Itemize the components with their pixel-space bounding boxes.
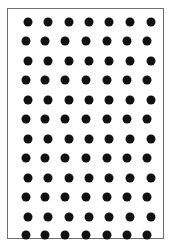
grid-dot (123, 231, 132, 240)
grid-dot (85, 18, 94, 27)
grid-dot (82, 154, 91, 163)
grid-dot (61, 37, 70, 46)
grid-dot (85, 57, 94, 66)
grid-dot (41, 76, 50, 85)
grid-dot (147, 174, 156, 183)
grid-dot (123, 193, 132, 202)
grid-dot (147, 18, 156, 27)
grid-dot (143, 115, 152, 124)
grid-dot (65, 57, 74, 66)
grid-dot (44, 135, 53, 144)
grid-dot (147, 213, 156, 222)
grid-dot (65, 18, 74, 27)
grid-dot (105, 18, 114, 27)
grid-dot (24, 174, 33, 183)
grid-dot (147, 96, 156, 105)
grid-dot (65, 96, 74, 105)
grid-dot (143, 76, 152, 85)
grid-dot (22, 76, 31, 85)
grid-dot (85, 96, 94, 105)
grid-dot (82, 193, 91, 202)
grid-dot (24, 135, 33, 144)
grid-dot (22, 193, 31, 202)
grid-dot (143, 37, 152, 46)
grid-dot (103, 231, 112, 240)
grid-dot (105, 213, 114, 222)
grid-dot (61, 231, 70, 240)
grid-dot (123, 115, 132, 124)
grid-dot (143, 193, 152, 202)
grid-dot (61, 76, 70, 85)
grid-dot (126, 57, 135, 66)
grid-dot (126, 96, 135, 105)
grid-dot (85, 135, 94, 144)
grid-dot (103, 76, 112, 85)
grid-dot (44, 96, 53, 105)
grid-dot (85, 174, 94, 183)
grid-dot (82, 76, 91, 85)
grid-dot (65, 174, 74, 183)
grid-dot (82, 115, 91, 124)
grid-dot (61, 193, 70, 202)
grid-dot (105, 174, 114, 183)
grid-dot (103, 154, 112, 163)
grid-dot (103, 193, 112, 202)
grid-dot (44, 213, 53, 222)
grid-dot (22, 231, 31, 240)
grid-dot (41, 193, 50, 202)
grid-dot (105, 57, 114, 66)
grid-dot (105, 96, 114, 105)
grid-dot (82, 231, 91, 240)
grid-dot (44, 18, 53, 27)
grid-dot (24, 96, 33, 105)
grid-dot (61, 154, 70, 163)
grid-dot (123, 154, 132, 163)
grid-dot (103, 115, 112, 124)
grid-dot (24, 213, 33, 222)
grid-dot (82, 37, 91, 46)
grid-dot (44, 174, 53, 183)
grid-dot (41, 37, 50, 46)
grid-dot (85, 213, 94, 222)
grid-dot (123, 37, 132, 46)
grid-dot (61, 115, 70, 124)
grid-dot (123, 76, 132, 85)
grid-dot (41, 154, 50, 163)
grid-dot (24, 18, 33, 27)
grid-dot (103, 37, 112, 46)
grid-dot (41, 115, 50, 124)
grid-dot (22, 37, 31, 46)
grid-dot (147, 57, 156, 66)
grid-dot (126, 213, 135, 222)
grid-dot (105, 135, 114, 144)
grid-dot (65, 135, 74, 144)
grid-dot (126, 174, 135, 183)
grid-dot (126, 18, 135, 27)
grid-dot (41, 231, 50, 240)
grid-dot (22, 115, 31, 124)
grid-dot (143, 154, 152, 163)
grid-dot (24, 57, 33, 66)
grid-dot (44, 57, 53, 66)
grid-dot (65, 213, 74, 222)
grid-dot (147, 135, 156, 144)
grid-dot (22, 154, 31, 163)
grid-dot (126, 135, 135, 144)
grid-dot (143, 231, 152, 240)
